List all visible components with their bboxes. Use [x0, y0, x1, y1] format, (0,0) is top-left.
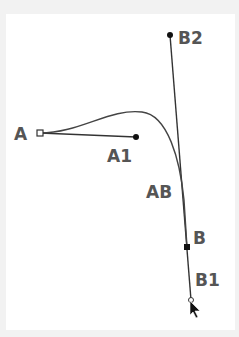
label-a1: A1 — [107, 146, 132, 166]
bezier-curve[interactable] — [40, 112, 187, 247]
handle-line-a-a1 — [40, 133, 136, 137]
bezier-diagram: A A1 B2 AB B B1 — [0, 0, 239, 337]
label-b2: B2 — [178, 28, 203, 48]
handle-line-b2-b1 — [170, 35, 191, 300]
handle-b2-marker[interactable] — [167, 32, 173, 38]
label-b1: B1 — [195, 270, 220, 290]
diagram-frame: A A1 B2 AB B B1 — [0, 0, 239, 337]
arrow-cursor-icon — [190, 301, 200, 318]
label-b: B — [193, 228, 206, 248]
handle-a1-marker[interactable] — [133, 134, 139, 140]
label-ab: AB — [146, 182, 172, 202]
anchor-b-marker[interactable] — [184, 244, 190, 250]
label-a: A — [14, 124, 28, 144]
anchor-a-marker[interactable] — [37, 130, 43, 136]
